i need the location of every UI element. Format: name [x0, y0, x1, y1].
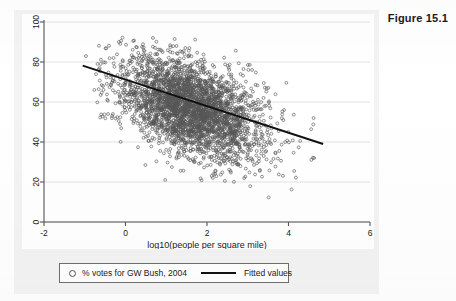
legend-label-scatter: % votes for GW Bush, 2004: [82, 268, 187, 278]
figure-screenshot: Figure 15.1 020406080100-20246 log10(peo…: [0, 0, 456, 301]
figure-title: Figure 15.1: [388, 12, 448, 24]
svg-text:40: 40: [31, 137, 41, 147]
legend-label-fitted-line: Fitted values: [244, 268, 292, 278]
svg-text:100: 100: [31, 15, 41, 29]
plot-area: 020406080100-20246 log10(people per squa…: [22, 14, 374, 249]
axis-label-group: log10(people per square mile): [147, 240, 267, 249]
svg-text:log10(people per square mile): log10(people per square mile): [147, 240, 267, 249]
solid-line-marker-icon: [201, 272, 236, 274]
svg-text:-2: -2: [40, 228, 48, 238]
scatter-plot-svg: 020406080100-20246 log10(people per squa…: [22, 14, 374, 249]
chart-legend: % votes for GW Bush, 2004 Fitted values: [59, 263, 289, 283]
svg-text:20: 20: [31, 177, 41, 187]
svg-text:60: 60: [31, 97, 41, 107]
svg-text:2: 2: [205, 228, 210, 238]
svg-text:6: 6: [368, 228, 373, 238]
svg-text:0: 0: [123, 228, 128, 238]
svg-text:80: 80: [31, 57, 41, 67]
svg-text:0: 0: [31, 219, 41, 224]
legend-entry-scatter: % votes for GW Bush, 2004: [60, 264, 187, 282]
scatter-points-group: [84, 36, 315, 199]
legend-entry-fitted-line: Fitted values: [187, 264, 292, 282]
svg-text:4: 4: [286, 228, 291, 238]
open-circle-marker-icon: [69, 270, 76, 277]
